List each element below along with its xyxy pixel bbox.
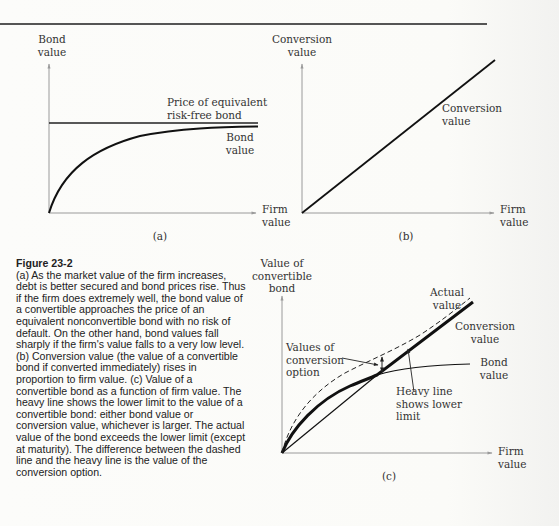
panel-a-bond-label-line2: value [222, 144, 258, 157]
panel-c-option-label-line2: conversion [286, 354, 344, 367]
panel-a-riskfree-label: Price of equivalent risk-free bond [167, 96, 267, 121]
panel-c-bond-label-line2: value [474, 369, 514, 382]
panel-c-y-label-line2: convertible [246, 270, 318, 283]
panel-c-actual-label: Actual value [425, 286, 469, 311]
panel-a-x-axis-label: Firm value [262, 203, 291, 228]
panel-b-tag: (b) [386, 230, 426, 243]
panel-a-x-label-line1: Firm [262, 203, 291, 216]
panel-c-x-axis-label: Firm value [498, 445, 527, 470]
panel-c-conversion-label: Conversion value [452, 320, 518, 345]
panel-c-option-label-line3: option [286, 366, 344, 379]
figure-number: Figure 23-2 [16, 258, 246, 270]
panel-c-actual-label-line2: value [425, 299, 469, 312]
panel-c-heavy-label: Heavy line shows lower limit [396, 385, 462, 423]
panel-c-y-label-line3: bond [246, 282, 318, 295]
panel-b-conversion-line [302, 60, 495, 213]
panel-b-line-label-line2: value [442, 115, 502, 128]
panel-a-riskfree-label-line1: Price of equivalent [167, 96, 267, 109]
panel-c-tag: (c) [369, 470, 409, 483]
panel-b-y-axis-label: Conversion value [270, 33, 334, 58]
panel-a-bond-label-line1: Bond [222, 131, 258, 144]
panel-a-bond-label: Bond value [222, 131, 258, 156]
panel-c-option-label: Values of conversion option [286, 341, 344, 379]
panel-a-tag: (a) [140, 230, 180, 243]
panel-a-y-label-line2: value [34, 46, 70, 59]
panel-b-y-label-line1: Conversion [270, 33, 334, 46]
panel-c-y-axis-label: Value of convertible bond [246, 257, 318, 295]
panel-b-line-label-line1: Conversion [442, 102, 502, 115]
panel-b-line-label: Conversion value [442, 102, 502, 127]
panel-b-x-axis-label: Firm value [500, 203, 529, 228]
panel-c-heavy-label-line1: Heavy line [396, 385, 462, 398]
panel-c-y-label-line1: Value of [246, 257, 318, 270]
panel-a-x-label-line2: value [262, 216, 291, 229]
panel-c-option-pointer [342, 358, 378, 365]
panel-c-heavy-label-line3: limit [396, 410, 462, 423]
panel-a-y-label-line1: Bond [34, 33, 70, 46]
figure-caption: Figure 23-2 (a) As the market value of t… [16, 258, 246, 478]
panel-c-conversion-label-line1: Conversion [452, 320, 518, 333]
panel-b-y-label-line2: value [270, 46, 334, 59]
panel-a-riskfree-label-line2: risk-free bond [167, 109, 267, 122]
panel-c-option-label-line1: Values of [286, 341, 344, 354]
panel-a-y-axis-label: Bond value [34, 33, 70, 58]
panel-b-x-label-line2: value [500, 216, 529, 229]
panel-c-actual-label-line1: Actual [425, 286, 469, 299]
figure-caption-text: (a) As the market value of the firm incr… [16, 270, 246, 479]
panel-c-x-label-line1: Firm [498, 445, 527, 458]
panel-c-x-label-line2: value [498, 458, 527, 471]
panel-c-heavy-label-line2: shows lower [396, 398, 462, 411]
panel-b-chart [302, 60, 495, 213]
panel-c-conversion-label-line2: value [452, 333, 518, 346]
panel-c-conversion-thin [282, 375, 377, 453]
panel-c-bond-label: Bond value [474, 356, 514, 381]
panel-b-x-label-line1: Firm [500, 203, 529, 216]
panel-c-bond-label-line1: Bond [474, 356, 514, 369]
